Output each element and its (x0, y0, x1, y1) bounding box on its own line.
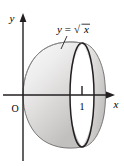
origin-label: O (11, 103, 18, 114)
curve-label-group: y = √ x (56, 23, 90, 35)
y-axis-label: y (9, 12, 15, 24)
solid-of-revolution-figure: y x O 1 y = √ x (0, 0, 124, 166)
curve-label-argument: x (83, 23, 89, 35)
curve-label-y: y (56, 23, 62, 35)
curve-label-radical: √ (74, 23, 81, 35)
curve-label-equals: = (64, 23, 71, 35)
x-tick-label-1: 1 (80, 101, 85, 112)
y-axis-arrowhead (20, 13, 27, 22)
x-axis-label: x (113, 98, 119, 110)
figure-canvas: y x O 1 y = √ x (0, 0, 124, 166)
